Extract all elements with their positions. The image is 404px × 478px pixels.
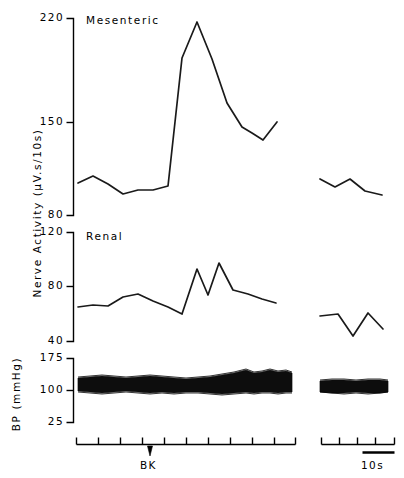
trace-renal-break [320,313,383,336]
plot-svg [0,0,404,478]
time-axis-main [77,438,296,445]
trace-mesenteric-main [78,22,277,194]
y-axis-spine-mesenteric [67,19,74,216]
trace-renal-main [78,263,276,314]
bk-event-arrow-icon [148,446,153,456]
figure-canvas: Nerve Activity (µV.s/10s) BP (mmHg) 220 … [0,0,404,478]
time-axis-break [322,438,395,445]
trace-mesenteric-break [320,179,382,195]
trace-bp-break [320,380,388,393]
trace-bp-main [78,370,292,394]
